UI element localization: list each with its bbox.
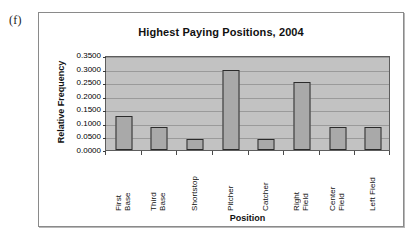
x-axis-tickmark: [141, 151, 142, 155]
figure-container: (f) Highest Paying Positions, 2004 Relat…: [0, 0, 419, 246]
bar[interactable]: [293, 82, 310, 150]
x-axis-tickmark: [176, 151, 177, 155]
x-axis-label-line: Pitcher: [225, 156, 234, 211]
x-axis-category-labels: FirstBaseThirdBaseShortstopPitcherCatche…: [105, 156, 390, 211]
x-axis-tickmark: [248, 151, 249, 155]
x-axis-label-line: Field: [301, 156, 310, 211]
bar[interactable]: [222, 70, 239, 150]
x-axis-tickmark: [105, 151, 106, 155]
x-axis-category-label: Left Field: [354, 156, 390, 211]
x-axis-category-label: Pitcher: [212, 156, 248, 211]
x-axis-tickmarks: [105, 151, 390, 155]
bar[interactable]: [187, 139, 204, 150]
bar-slot: [106, 57, 142, 150]
y-axis-tick-label: 0.2000: [59, 93, 101, 101]
y-axis-tick-label: 0.0500: [59, 133, 101, 141]
chart-title: Highest Paying Positions, 2004: [39, 26, 403, 38]
bar-slot: [249, 57, 285, 150]
bar[interactable]: [329, 127, 346, 150]
y-axis-tick-label: 0.3000: [59, 66, 101, 74]
bar[interactable]: [258, 139, 275, 150]
x-axis-label-line: Base: [123, 156, 132, 211]
y-axis-tick-label: 0.2500: [59, 79, 101, 87]
x-axis-category-label: RightField: [283, 156, 319, 211]
y-axis-tick-label: 0.0000: [59, 147, 101, 155]
bar-slot: [213, 57, 249, 150]
bar-slot: [355, 57, 391, 150]
x-axis-label-line: Field: [337, 156, 346, 211]
x-axis-label-line: Right: [292, 156, 301, 211]
bar[interactable]: [365, 127, 382, 150]
x-axis-title: Position: [105, 213, 390, 223]
x-axis-category-label: Catcher: [248, 156, 284, 211]
x-axis-tickmark: [212, 151, 213, 155]
y-axis-tick-labels: 0.00000.05000.10000.15000.20000.25000.30…: [59, 56, 101, 151]
x-axis-label-line: Center: [328, 156, 337, 211]
y-axis-tick-label: 0.3500: [59, 52, 101, 60]
y-axis-tick-label: 0.1000: [59, 120, 101, 128]
bar-slot: [320, 57, 356, 150]
x-axis-category-label: FirstBase: [105, 156, 141, 211]
bar[interactable]: [115, 116, 132, 150]
chart-frame: Highest Paying Positions, 2004 Relative …: [38, 12, 404, 227]
x-axis-category-label: ThirdBase: [141, 156, 177, 211]
plot-area: [105, 56, 390, 151]
bar-series: [106, 57, 389, 150]
figure-letter: (f): [9, 13, 22, 28]
x-axis-tickmark: [389, 151, 390, 155]
x-axis-label-line: Shortstop: [190, 156, 199, 211]
x-axis-category-label: CenterField: [319, 156, 355, 211]
x-axis-label-line: Catcher: [261, 156, 270, 211]
bar-slot: [284, 57, 320, 150]
x-axis-label-line: First: [114, 156, 123, 211]
x-axis-category-label: Shortstop: [176, 156, 212, 211]
x-axis-tickmark: [283, 151, 284, 155]
bar-slot: [177, 57, 213, 150]
x-axis-label-line: Base: [158, 156, 167, 211]
x-axis-tickmark: [319, 151, 320, 155]
y-axis-tick-label: 0.1500: [59, 106, 101, 114]
x-axis-label-line: Left Field: [368, 156, 377, 211]
bar-slot: [142, 57, 178, 150]
bar[interactable]: [151, 127, 168, 150]
x-axis-tickmark: [354, 151, 355, 155]
